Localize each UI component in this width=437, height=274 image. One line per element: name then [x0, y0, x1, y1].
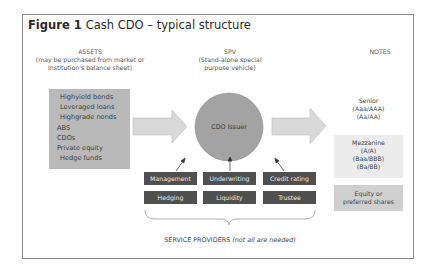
cdo-issuer-label: CDO Issuer — [195, 123, 263, 131]
tranche-rating: (A/A) — [334, 147, 403, 155]
tranche-name: Senior — [334, 97, 403, 105]
service-provider-hedging: Hedging — [144, 191, 197, 204]
tranche-name: Mezzanine — [334, 139, 403, 147]
caption-note: (not all are needed) — [232, 236, 295, 244]
provider-connector-arrows — [176, 157, 284, 171]
spv-to-notes-arrow — [272, 108, 326, 144]
tranche-rating: preferred shares — [334, 198, 403, 206]
assets-to-spv-arrow — [133, 110, 187, 143]
tranche-name: Equity or — [334, 190, 403, 198]
tranche-equity: Equity or preferred shares — [334, 190, 403, 206]
service-providers-brace-icon — [145, 210, 315, 225]
diagram-shapes — [0, 0, 437, 274]
tranche-senior: Senior (Aaa/AAA) (Aa/AA) — [334, 97, 403, 121]
tranche-rating: (Baa/BBB) — [334, 155, 403, 163]
tranche-mezzanine: Mezzanine (A/A) (Baa/BBB) (Ba/BB) — [334, 139, 403, 171]
service-provider-liquidity: Liquidity — [203, 191, 256, 204]
service-provider-credit-rating: Credit rating — [263, 172, 316, 185]
tranche-rating: (Aa/AA) — [334, 113, 403, 121]
service-provider-underwriting: Underwriting — [203, 172, 256, 185]
service-provider-management: Management — [144, 172, 197, 185]
tranche-rating: (Aaa/AAA) — [334, 105, 403, 113]
caption-main: SERVICE PROVIDERS — [164, 236, 230, 244]
service-provider-trustee: Trustee — [263, 191, 316, 204]
tranche-rating: (Ba/BB) — [334, 163, 403, 171]
service-providers-caption: SERVICE PROVIDERS (not all are needed) — [130, 236, 330, 244]
